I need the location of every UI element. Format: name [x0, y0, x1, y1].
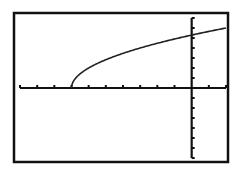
graph-screen [0, 0, 234, 171]
